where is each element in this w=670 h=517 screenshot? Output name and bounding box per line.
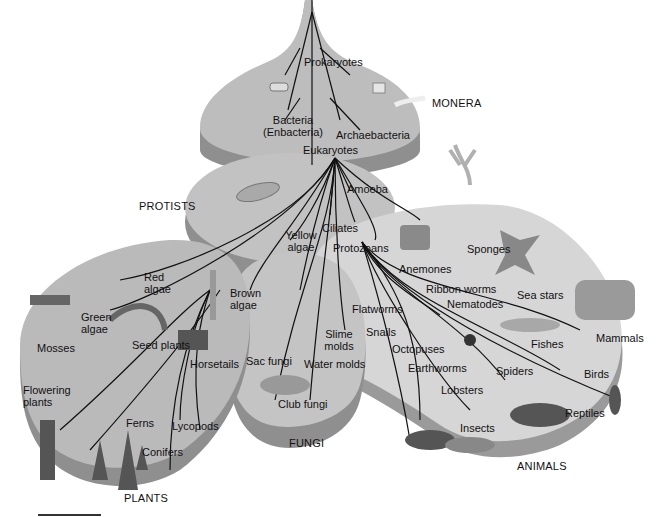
label-sea-stars: Sea stars — [517, 289, 563, 301]
label-sac-fungi: Sac fungi — [246, 355, 292, 367]
label-conifers: Conifers — [142, 446, 183, 458]
label-sponges: Sponges — [467, 243, 510, 255]
label-insects: Insects — [460, 422, 495, 434]
label-flowering-plants: Floweringplants — [23, 384, 71, 408]
kingdom-fungi: FUNGI — [289, 437, 324, 449]
label-anemones: Anemones — [399, 263, 452, 275]
label-brown-algae: Brownalgae — [230, 287, 261, 311]
label-ciliates: Ciliates — [322, 222, 358, 234]
kingdom-plants: PLANTS — [124, 492, 168, 504]
kingdom-protists: PROTISTS — [139, 200, 196, 212]
label-lobsters: Lobsters — [441, 384, 483, 396]
label-horsetails: Horsetails — [190, 358, 239, 370]
label-mosses: Mosses — [37, 342, 75, 354]
label-fishes: Fishes — [531, 338, 563, 350]
label-slime-molds: Slimemolds — [322, 328, 356, 352]
label-octopuses: Octopuses — [392, 343, 445, 355]
label-archaebacteria: Archaebacteria — [336, 129, 410, 141]
label-nematodes: Nematodes — [447, 298, 503, 310]
label-club-fungi: Club fungi — [278, 398, 328, 410]
label-green-algae: Greenalgae — [81, 311, 112, 335]
label-flatworms: Flatworms — [352, 303, 403, 315]
label-lycopods: Lycopods — [172, 420, 219, 432]
label-spiders: Spiders — [496, 365, 533, 377]
label-earthworms: Earthworms — [408, 362, 467, 374]
label-prokaryotes: Prokaryotes — [304, 56, 363, 68]
label-mammals: Mammals — [596, 332, 644, 344]
label-bacteria: Bacteria(Enbacteria) — [263, 114, 323, 138]
label-reptiles: Reptiles — [565, 407, 605, 419]
kingdom-animals: ANIMALS — [517, 460, 567, 472]
label-amoeba: Amoeba — [347, 183, 388, 195]
label-water-molds: Water molds — [304, 358, 365, 370]
label-birds: Birds — [584, 368, 609, 380]
label-ribbon-worms: Ribbon worms — [426, 283, 496, 295]
label-yellow-algae: Yellowalgae — [284, 229, 318, 253]
label-eukaryotes: Eukaryotes — [303, 144, 358, 156]
label-red-algae: Redalgae — [144, 271, 171, 295]
tree-of-life-diagram — [0, 0, 670, 517]
label-seed-plants: Seed plants — [132, 339, 190, 351]
label-snails: Snails — [366, 326, 396, 338]
kingdom-monera: MONERA — [432, 97, 481, 109]
label-ferns: Ferns — [126, 417, 154, 429]
label-protozoans: Protozoans — [333, 242, 389, 254]
